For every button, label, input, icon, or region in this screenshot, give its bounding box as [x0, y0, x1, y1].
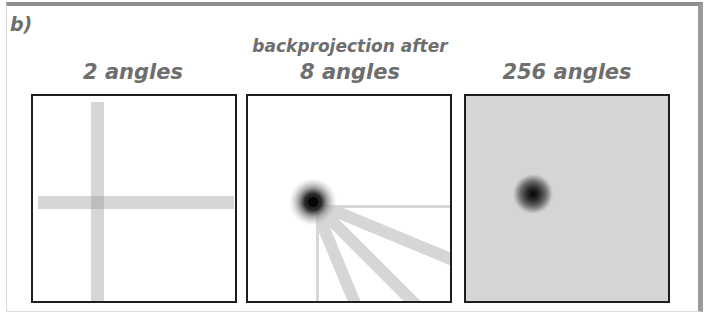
header-label: backprojection after	[250, 36, 450, 56]
panel-title-8-angles: 8 angles	[250, 60, 450, 84]
panel-8-angles	[246, 94, 452, 303]
figure-label: b)	[10, 13, 32, 35]
panel-256-angles	[464, 94, 670, 303]
backprojection-256-angles-image	[466, 96, 670, 303]
backprojection-8-angles-image	[248, 96, 452, 303]
backprojection-2-angles-image	[33, 96, 237, 303]
panel-title-256-angles: 256 angles	[467, 60, 667, 84]
panel-title-2-angles: 2 angles	[33, 60, 233, 84]
panel-2-angles	[31, 94, 237, 303]
